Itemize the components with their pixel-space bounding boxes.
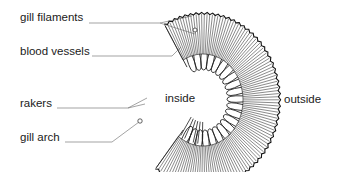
label-outside: outside [284,94,321,106]
gill-diagram [0,0,345,172]
label-gill-arch: gill arch [20,132,60,144]
leader-gill-arch [65,122,139,142]
rakers [181,117,203,144]
leader-lines [57,16,195,142]
leader-gill-filaments [89,16,192,23]
label-rakers: rakers [20,98,52,110]
label-blood-vessels: blood vessels [20,46,90,58]
leader-blood-vessels [92,47,181,56]
label-inside: inside [165,93,195,105]
label-gill-filaments: gill filaments [20,12,83,24]
gill-arch-base [138,28,197,123]
